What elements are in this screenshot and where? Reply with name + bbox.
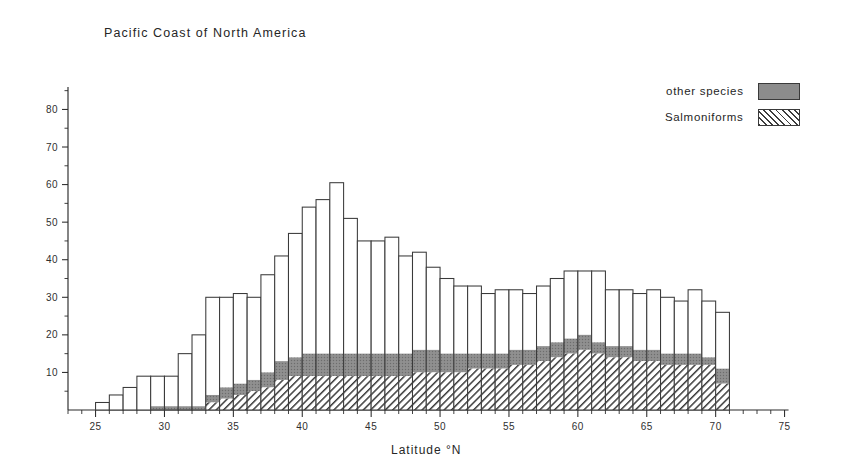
bar-segment-salmoniforms	[440, 372, 454, 410]
histogram-bar	[261, 275, 275, 410]
bar-segment-other-species	[619, 346, 633, 357]
bar-segment-other-species	[413, 350, 427, 373]
bar-segment-other-species	[509, 350, 523, 365]
histogram-bar	[647, 290, 661, 410]
bar-segment-salmoniforms	[399, 376, 413, 410]
bar-segment-other-species	[206, 395, 220, 403]
bar-segment-salmoniforms	[220, 399, 234, 410]
x-tick-label: 30	[158, 421, 170, 432]
bar-segment-salmoniforms	[330, 376, 344, 410]
bar-segment-salmoniforms	[647, 361, 661, 410]
bar-segment-other-species	[302, 354, 316, 377]
y-tick-label: 80	[46, 104, 58, 115]
bar-segment-other-species	[716, 369, 730, 384]
histogram-bar	[633, 294, 647, 410]
bar-segment-salmoniforms	[605, 357, 619, 410]
x-tick-label: 35	[227, 421, 239, 432]
bar-segment-other-species	[674, 354, 688, 365]
bar-segment-other-species	[647, 350, 661, 361]
bar-segment-salmoniforms	[316, 376, 330, 410]
histogram-bar	[716, 312, 730, 410]
bar-segment-salmoniforms	[674, 365, 688, 410]
histogram-bar	[578, 271, 592, 410]
histogram-bar	[619, 290, 633, 410]
histogram-bar	[674, 301, 688, 410]
bar-segment-salmoniforms	[247, 391, 261, 410]
y-tick-label: 50	[46, 217, 58, 228]
histogram-bar	[605, 290, 619, 410]
chart-plot-area: 10203040506070802530354045505560657075La…	[0, 0, 868, 466]
bar-segment-other-species	[357, 354, 371, 377]
histogram-bar	[220, 297, 234, 410]
histogram-bar	[247, 297, 261, 410]
bar-segment-salmoniforms	[633, 361, 647, 410]
bar-segment-other-species	[164, 406, 178, 410]
bar-segment-salmoniforms	[371, 376, 385, 410]
x-tick-label: 65	[641, 421, 653, 432]
bar-segment-other-species	[454, 354, 468, 373]
bar-segment-other-species	[495, 354, 509, 369]
bar-segment-salmoniforms	[688, 365, 702, 410]
bar-segment-remainder	[206, 297, 220, 410]
bar-segment-salmoniforms	[454, 372, 468, 410]
histogram-bar	[509, 290, 523, 410]
bar-segment-salmoniforms	[426, 372, 440, 410]
histogram-bar	[385, 237, 399, 410]
histogram-bar	[481, 294, 495, 410]
bar-segment-salmoniforms	[275, 380, 289, 410]
y-tick-label: 30	[46, 292, 58, 303]
histogram-bar	[454, 286, 468, 410]
bar-segment-remainder	[164, 376, 178, 410]
histogram-bar	[550, 279, 564, 410]
x-tick-label: 50	[434, 421, 446, 432]
bar-segment-other-species	[564, 339, 578, 354]
bar-segment-salmoniforms	[578, 350, 592, 410]
bar-segment-other-species	[192, 406, 206, 410]
histogram-bar	[233, 294, 247, 410]
chart-container: Pacific Coast of North America other spe…	[0, 0, 868, 466]
bar-segment-salmoniforms	[716, 384, 730, 410]
histogram-bar	[357, 241, 371, 410]
bar-segment-salmoniforms	[261, 387, 275, 410]
bar-segment-other-species	[288, 357, 302, 376]
histogram-bar	[495, 290, 509, 410]
bar-segment-salmoniforms	[661, 365, 675, 410]
histogram-bar	[275, 256, 289, 410]
bar-segment-other-species	[550, 342, 564, 357]
bar-segment-salmoniforms	[619, 357, 633, 410]
bar-segment-remainder	[137, 376, 151, 410]
bar-segment-salmoniforms	[233, 395, 247, 410]
bar-segment-other-species	[592, 342, 606, 353]
y-tick-label: 70	[46, 142, 58, 153]
bar-segment-other-species	[178, 406, 192, 410]
bar-segment-other-species	[371, 354, 385, 377]
histogram-bar	[564, 271, 578, 410]
x-tick-label: 25	[89, 421, 101, 432]
histogram-bar	[688, 290, 702, 410]
bar-segment-other-species	[537, 346, 551, 361]
histogram-bar	[440, 279, 454, 410]
bars-layer	[96, 183, 730, 410]
histogram-bar	[192, 335, 206, 410]
x-tick-label: 45	[365, 421, 377, 432]
bar-segment-salmoniforms	[537, 361, 551, 410]
bar-segment-other-species	[440, 354, 454, 373]
bar-segment-salmoniforms	[344, 376, 358, 410]
histogram-bar	[413, 252, 427, 410]
bar-segment-other-species	[468, 354, 482, 369]
histogram-bar	[96, 402, 110, 410]
bar-segment-other-species	[661, 354, 675, 365]
bar-segment-other-species	[220, 387, 234, 398]
bar-segment-other-species	[261, 372, 275, 387]
bar-segment-salmoniforms	[550, 357, 564, 410]
bar-segment-salmoniforms	[206, 402, 220, 410]
bar-segment-salmoniforms	[509, 365, 523, 410]
histogram-bar	[371, 241, 385, 410]
bar-segment-other-species	[523, 350, 537, 365]
bar-segment-other-species	[578, 335, 592, 350]
bar-segment-salmoniforms	[564, 354, 578, 410]
histogram-bar	[399, 256, 413, 410]
bar-segment-remainder	[96, 402, 110, 410]
x-tick-label: 60	[572, 421, 584, 432]
histogram-bar	[123, 387, 137, 410]
